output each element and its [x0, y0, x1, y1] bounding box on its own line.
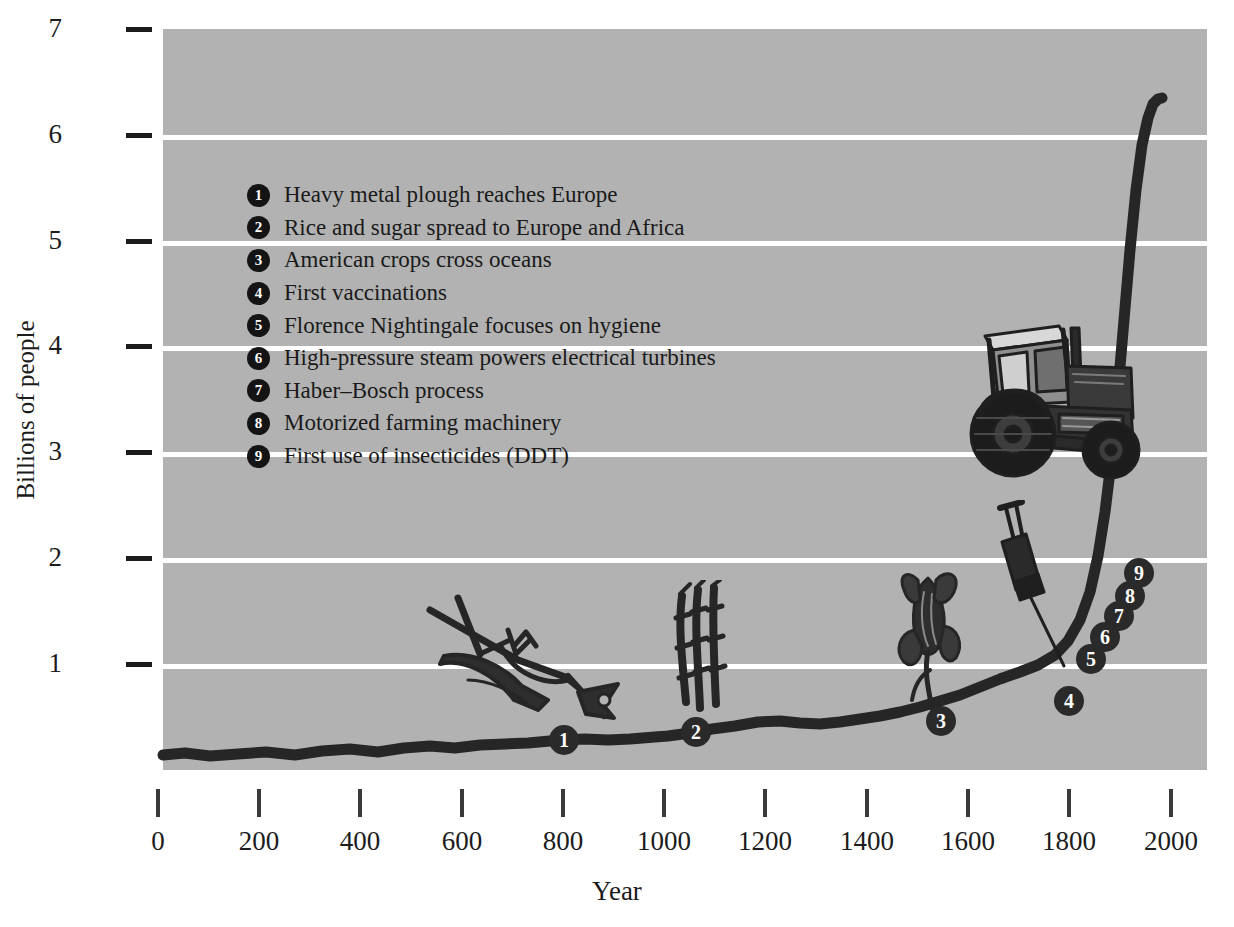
y-axis-title: Billions of people: [12, 280, 40, 540]
xtick-label-2000: 2000: [1144, 826, 1198, 857]
legend-label-6: High-pressure steam powers electrical tu…: [284, 345, 716, 371]
legend: 1 Heavy metal plough reaches Europe 2 Ri…: [247, 179, 867, 472]
legend-label-7: Haber–Bosch process: [284, 378, 484, 404]
xtick-label-1200: 1200: [738, 826, 792, 857]
legend-bullet-8-icon: 8: [247, 412, 270, 435]
curve-marker-3[interactable]: 3: [926, 706, 956, 736]
legend-item-1: 1 Heavy metal plough reaches Europe: [247, 179, 867, 212]
xtick-label-1600: 1600: [941, 826, 995, 857]
legend-item-8: 8 Motorized farming machinery: [247, 407, 867, 440]
xtick-label-0: 0: [151, 826, 165, 857]
curve-marker-9[interactable]: 9: [1124, 558, 1154, 588]
xtick-label-1000: 1000: [637, 826, 691, 857]
gridline-6: [163, 135, 1207, 140]
x-axis-title: Year: [0, 876, 1234, 907]
legend-bullet-1-icon: 1: [247, 184, 270, 207]
syringe-illustration: [996, 500, 1072, 670]
xtick-label-400: 400: [340, 826, 381, 857]
xtick-label-200: 200: [239, 826, 280, 857]
ytick-label-5: 5: [22, 225, 62, 256]
corn-illustration: [888, 566, 974, 712]
curve-marker-2[interactable]: 2: [681, 717, 711, 747]
legend-bullet-6-icon: 6: [247, 347, 270, 370]
xtick-label-1800: 1800: [1042, 826, 1096, 857]
ytick-label-6: 6: [22, 119, 62, 150]
sugarcane-illustration: [668, 580, 740, 716]
legend-item-7: 7 Haber–Bosch process: [247, 375, 867, 408]
xtick-mark-400: [358, 789, 362, 817]
xtick-label-800: 800: [543, 826, 584, 857]
curve-marker-4[interactable]: 4: [1054, 686, 1084, 716]
ytick-mark-3: [126, 450, 152, 455]
xtick-mark-600: [460, 789, 464, 817]
xtick-mark-1200: [763, 789, 767, 817]
xtick-label-600: 600: [442, 826, 483, 857]
curve-marker-1[interactable]: 1: [549, 725, 579, 755]
legend-label-4: First vaccinations: [284, 280, 447, 306]
legend-label-1: Heavy metal plough reaches Europe: [284, 182, 617, 208]
xtick-mark-1000: [662, 789, 666, 817]
ytick-label-7: 7: [22, 13, 62, 44]
legend-bullet-5-icon: 5: [247, 314, 270, 337]
ytick-mark-2: [126, 556, 152, 561]
ytick-mark-6: [126, 133, 152, 138]
legend-bullet-9-icon: 9: [247, 445, 270, 468]
legend-item-2: 2 Rice and sugar spread to Europe and Af…: [247, 212, 867, 245]
legend-item-6: 6 High-pressure steam powers electrical …: [247, 342, 867, 375]
legend-item-9: 9 First use of insecticides (DDT): [247, 440, 867, 473]
legend-label-3: American crops cross oceans: [284, 247, 552, 273]
tractor-illustration: [955, 318, 1177, 486]
ytick-mark-7: [126, 27, 152, 32]
population-growth-chart: 7 6 5 4 3 2 1 Billions of people 0 200 4…: [0, 0, 1234, 927]
legend-item-3: 3 American crops cross oceans: [247, 244, 867, 277]
legend-label-2: Rice and sugar spread to Europe and Afri…: [284, 215, 684, 241]
legend-bullet-3-icon: 3: [247, 249, 270, 272]
ytick-mark-4: [126, 344, 152, 349]
xtick-mark-1600: [966, 789, 970, 817]
ytick-mark-5: [126, 239, 152, 244]
xtick-mark-200: [257, 789, 261, 817]
legend-bullet-2-icon: 2: [247, 216, 270, 239]
legend-item-5: 5 Florence Nightingale focuses on hygien…: [247, 309, 867, 342]
xtick-mark-1800: [1067, 789, 1071, 817]
legend-bullet-7-icon: 7: [247, 379, 270, 402]
xtick-mark-2000: [1169, 789, 1173, 817]
legend-bullet-4-icon: 4: [247, 282, 270, 305]
legend-item-4: 4 First vaccinations: [247, 277, 867, 310]
legend-label-9: First use of insecticides (DDT): [284, 443, 569, 469]
xtick-mark-0: [156, 789, 160, 817]
ytick-label-1: 1: [22, 648, 62, 679]
xtick-mark-800: [561, 789, 565, 817]
xtick-mark-1400: [865, 789, 869, 817]
ytick-mark-1: [126, 662, 152, 667]
legend-label-5: Florence Nightingale focuses on hygiene: [284, 313, 661, 339]
plough-illustration: [418, 588, 633, 723]
ytick-label-2: 2: [22, 542, 62, 573]
legend-label-8: Motorized farming machinery: [284, 410, 561, 436]
xtick-label-1400: 1400: [840, 826, 894, 857]
